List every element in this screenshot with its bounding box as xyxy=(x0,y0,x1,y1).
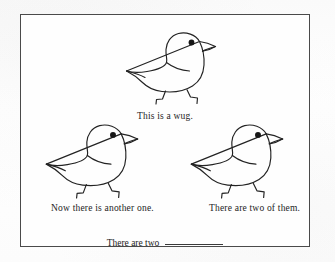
wug-bird-icon xyxy=(121,27,223,105)
illustration-frame: This is a wug. xyxy=(20,14,310,247)
wug-bird-left xyxy=(40,119,146,199)
wug-test-page: This is a wug. xyxy=(0,0,335,262)
fill-in-blank-rule[interactable] xyxy=(165,237,223,245)
caption-now-there-is-another-one: Now there is another one. xyxy=(51,203,154,213)
wug-bird-icon xyxy=(40,119,146,199)
wug-bird-top xyxy=(121,27,223,105)
caption-bottom-prompt-row: There are two xyxy=(21,237,309,248)
caption-there-are-two-of-them: There are two of them. xyxy=(209,203,300,213)
caption-there-are-two: There are two xyxy=(107,238,160,248)
wug-bird-icon xyxy=(185,119,291,199)
wug-bird-right xyxy=(185,119,291,199)
